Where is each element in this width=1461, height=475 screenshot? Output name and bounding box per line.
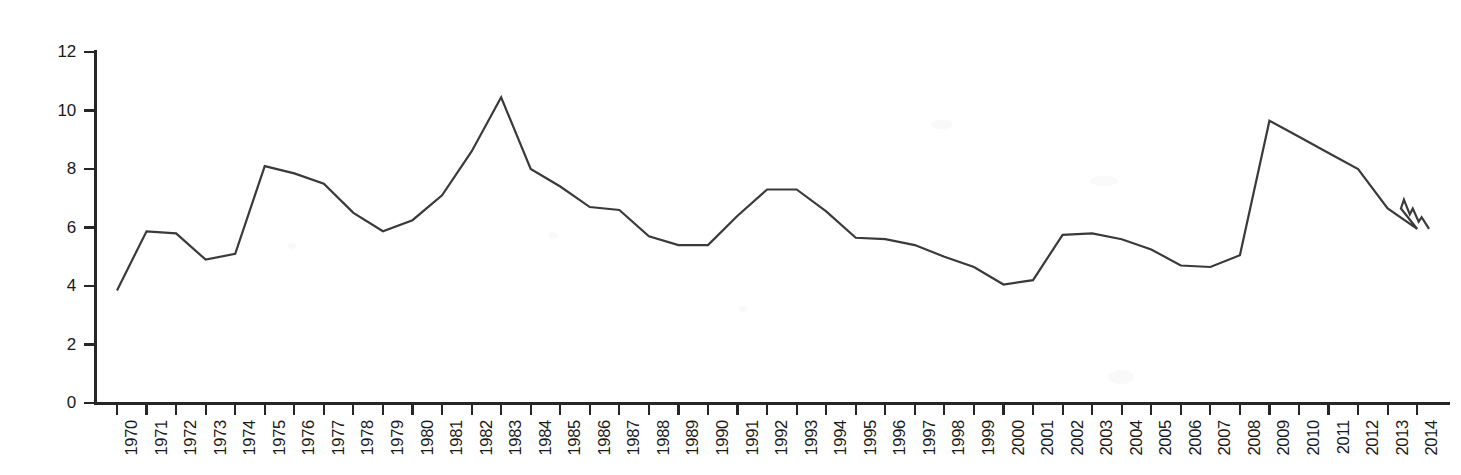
series-line — [96, 52, 1448, 403]
x-axis-tick — [116, 404, 118, 415]
y-axis-tick-label: 6 — [16, 219, 76, 236]
x-axis-tick — [1002, 404, 1004, 415]
y-axis-tick-label: 0 — [16, 394, 76, 411]
x-axis-tick-label: 1974 — [241, 420, 258, 456]
x-axis-tick-label: 1980 — [419, 420, 436, 456]
y-axis-tick — [84, 109, 95, 111]
x-axis-tick — [382, 404, 384, 415]
x-axis-tick — [500, 404, 502, 415]
x-axis-tick-label: 1973 — [212, 420, 229, 456]
x-axis-tick — [175, 404, 177, 415]
x-axis-tick — [234, 404, 236, 415]
x-axis-tick-label: 2006 — [1187, 420, 1204, 456]
x-axis-tick — [145, 404, 147, 415]
y-axis-tick — [84, 343, 95, 345]
x-axis-tick — [530, 404, 532, 415]
x-axis-tick-label: 2014 — [1423, 420, 1440, 456]
x-axis-tick-label: 1988 — [655, 420, 672, 456]
x-axis-tick — [973, 404, 975, 415]
x-axis-tick — [618, 404, 620, 415]
x-axis-tick-label: 2011 — [1335, 420, 1352, 454]
x-axis-tick-label: 1984 — [537, 420, 554, 456]
x-axis-tick-label: 2003 — [1098, 420, 1115, 456]
x-axis-tick — [855, 404, 857, 415]
x-axis-tick-label: 1994 — [832, 420, 849, 456]
plot-area — [96, 52, 1448, 403]
x-axis-tick — [205, 404, 207, 415]
x-axis-tick — [1239, 404, 1241, 415]
x-axis-tick-label: 1982 — [478, 420, 495, 456]
x-axis-tick — [1327, 404, 1329, 415]
x-axis-tick — [1062, 404, 1064, 415]
x-axis-tick-label: 1990 — [714, 420, 731, 456]
x-axis-tick-label: 1991 — [744, 420, 761, 456]
x-axis-tick-label: 1971 — [153, 420, 170, 456]
x-axis-tick-label: 1981 — [448, 420, 465, 456]
x-axis-tick — [1032, 404, 1034, 415]
x-axis-tick — [352, 404, 354, 415]
x-axis-tick-label: 2008 — [1246, 420, 1263, 456]
x-axis-tick-label: 1970 — [123, 420, 140, 456]
x-axis-tick-label: 2009 — [1275, 420, 1292, 456]
x-axis-tick — [293, 404, 295, 415]
x-axis-tick-label: 1985 — [566, 420, 583, 456]
x-axis-tick-label: 2007 — [1216, 420, 1233, 456]
x-axis-tick — [441, 404, 443, 415]
x-axis-tick — [1416, 404, 1418, 415]
x-axis-tick — [264, 404, 266, 415]
x-axis-tick — [677, 404, 679, 415]
x-axis-tick — [1121, 404, 1123, 415]
x-axis-tick-label: 1995 — [862, 420, 879, 456]
x-axis-tick-label: 2012 — [1364, 420, 1381, 456]
x-axis-tick — [736, 404, 738, 415]
x-axis-tick — [648, 404, 650, 415]
x-axis-tick-label: 1976 — [300, 420, 317, 456]
x-axis-tick-label: 1978 — [359, 420, 376, 456]
x-axis-tick — [323, 404, 325, 415]
data-line — [117, 97, 1429, 290]
x-axis-tick — [411, 404, 413, 415]
x-axis-tick-label: 1987 — [625, 420, 642, 456]
x-axis-tick-label: 1997 — [921, 420, 938, 456]
x-axis-tick-label: 1979 — [389, 420, 406, 456]
x-axis-tick — [707, 404, 709, 415]
y-axis-tick-label: 4 — [16, 277, 76, 294]
x-axis-tick-label: 1975 — [271, 420, 288, 456]
y-axis-tick — [84, 402, 95, 404]
x-axis-tick-label: 2005 — [1157, 420, 1174, 456]
y-axis-tick-label: 10 — [16, 102, 76, 119]
x-axis-tick — [1091, 404, 1093, 415]
x-axis-tick — [884, 404, 886, 415]
x-axis-tick-label: 2013 — [1394, 420, 1411, 456]
x-axis-tick — [1357, 404, 1359, 415]
x-axis-tick — [559, 404, 561, 415]
y-axis-tick — [84, 168, 95, 170]
line-chart: 024681012 197019711972197319741975197619… — [0, 0, 1461, 475]
x-axis-tick-label: 1972 — [182, 420, 199, 456]
x-axis-tick — [1209, 404, 1211, 415]
x-axis-tick-label: 1998 — [950, 420, 967, 456]
x-axis-tick — [943, 404, 945, 415]
y-axis-tick-label: 8 — [16, 160, 76, 177]
x-axis-tick-label: 1993 — [803, 420, 820, 456]
x-axis-tick — [825, 404, 827, 415]
y-axis-tick — [84, 285, 95, 287]
x-axis-tick — [766, 404, 768, 415]
x-axis-tick — [1298, 404, 1300, 415]
x-axis-tick-label: 2002 — [1069, 420, 1086, 456]
x-axis-tick — [1268, 404, 1270, 415]
x-axis-tick-label: 2001 — [1039, 420, 1056, 456]
x-axis-tick — [589, 404, 591, 415]
x-axis-tick — [914, 404, 916, 415]
x-axis-tick — [796, 404, 798, 415]
x-axis-tick-label: 2010 — [1305, 420, 1322, 456]
x-axis-tick — [1150, 404, 1152, 415]
x-axis-tick-label: 1999 — [980, 420, 997, 456]
y-axis-tick — [84, 226, 95, 228]
y-axis-tick-label: 12 — [16, 43, 76, 60]
x-axis-tick — [1180, 404, 1182, 415]
x-axis-tick-label: 1989 — [684, 420, 701, 456]
y-axis-tick-label: 2 — [16, 336, 76, 353]
x-axis-tick-label: 1986 — [596, 420, 613, 456]
x-axis-tick-label: 2004 — [1128, 420, 1145, 456]
